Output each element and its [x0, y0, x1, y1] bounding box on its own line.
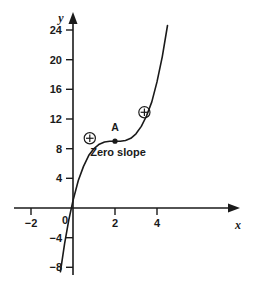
point-a-label: A	[111, 121, 119, 133]
x-axis	[14, 204, 240, 213]
x-tick-label-4: 4	[154, 217, 161, 229]
y-tick-label-neg4: −4	[49, 232, 62, 244]
x-axis-label: x	[234, 218, 241, 232]
y-axis-arrowhead	[69, 12, 78, 24]
y-tick-label-24: 24	[50, 24, 63, 36]
x-tick-label-neg2: −2	[25, 217, 38, 229]
circled-plus-icon-left	[84, 133, 95, 144]
y-axis	[69, 12, 78, 275]
y-tick-label-8: 8	[56, 143, 62, 155]
y-tick-label-16: 16	[50, 83, 62, 95]
zero-slope-annotation: Zero slope	[90, 146, 146, 158]
x-tick-label-2: 2	[112, 217, 118, 229]
y-tick-label-20: 20	[50, 54, 62, 66]
point-a-dot	[112, 139, 117, 144]
cubic-function-plot: 24 20 16 12 8 4 0 −4 −8 −2 2 4 y x A Zer…	[0, 0, 257, 291]
y-axis-label: y	[56, 11, 64, 25]
y-tick-label-0: 0	[62, 214, 68, 226]
x-axis-arrowhead	[228, 204, 240, 213]
x-axis-ticks	[31, 208, 157, 215]
y-tick-label-12: 12	[50, 113, 62, 125]
plot-canvas: 24 20 16 12 8 4 0 −4 −8 −2 2 4 y x A Zer…	[0, 0, 257, 291]
y-tick-label-4: 4	[56, 172, 63, 184]
